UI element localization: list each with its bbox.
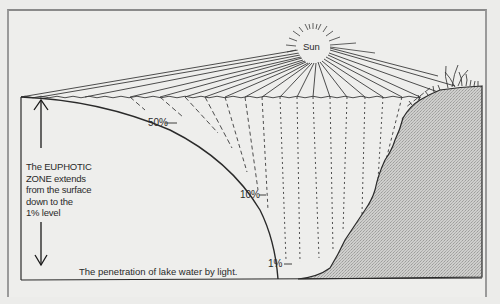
light-level-10-label: 10% (240, 189, 260, 201)
light-level-50-label: 50% (148, 117, 168, 129)
sun-label: Sun (303, 41, 320, 52)
arrow-down-icon (35, 222, 47, 265)
euphotic-zone-description: The EUPHOTIC ZONE extends from the surfa… (26, 161, 96, 219)
light-level-1-label: 1% (268, 258, 282, 270)
sun-rays (21, 48, 455, 97)
arrow-up-icon (34, 100, 48, 148)
lake-light-diagram (0, 0, 500, 304)
water-surface (21, 96, 421, 98)
shore-bank (298, 86, 482, 279)
diagram-caption: The penetration of lake water by light. (79, 266, 237, 277)
